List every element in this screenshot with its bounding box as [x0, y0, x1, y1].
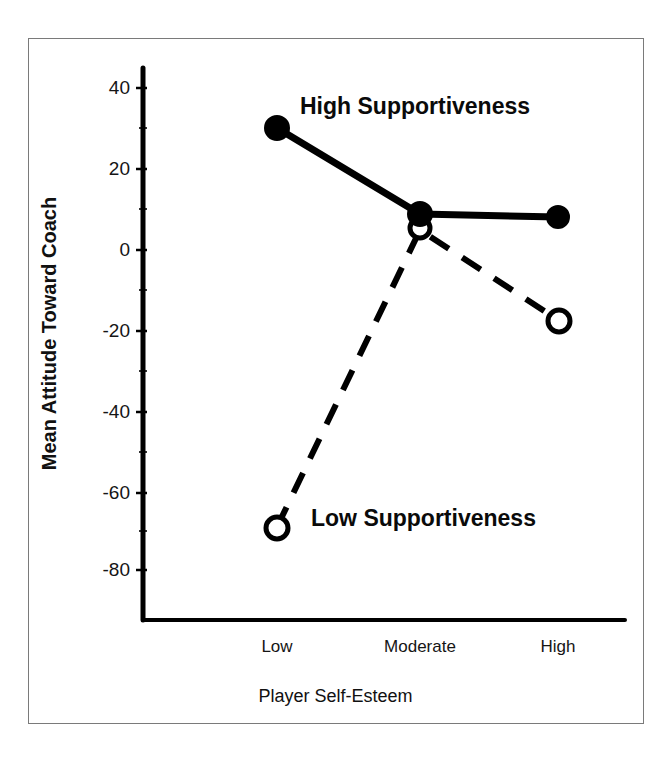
- series-markers-high-supportiveness: [265, 116, 569, 228]
- y-tick-label-neg80: -80: [70, 559, 130, 581]
- x-tick-label-low: Low: [217, 637, 337, 657]
- y-axis-title: Mean Attitude Toward Coach: [38, 169, 61, 499]
- y-tick-label-neg60: -60: [70, 482, 130, 504]
- series-markers-low-supportiveness: [266, 218, 570, 539]
- x-tick-label-high: High: [498, 637, 618, 657]
- x-tick-label-moderate: Moderate: [360, 637, 480, 657]
- y-tick-label-neg20: -20: [70, 320, 130, 342]
- y-tick-label-0: 0: [70, 239, 130, 261]
- series-label-low-supportiveness: Low Supportiveness: [311, 505, 536, 532]
- x-axis-title: Player Self-Esteem: [0, 686, 671, 707]
- series-line-low-supportiveness: [277, 230, 558, 527]
- y-tick-label-40: 40: [70, 77, 130, 99]
- figure-container: 40 20 0 -20 -40 -60 -80 Low Moderate Hig…: [0, 0, 671, 759]
- series-label-high-supportiveness: High Supportiveness: [300, 93, 530, 120]
- y-tick-label-20: 20: [70, 158, 130, 180]
- y-tick-label-neg40: -40: [70, 401, 130, 423]
